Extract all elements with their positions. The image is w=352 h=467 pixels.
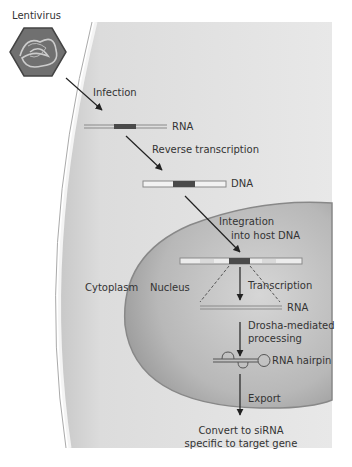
host-dna-strand [180, 258, 302, 264]
lentivirus-icon [10, 28, 66, 76]
label-rna-transcript: RNA [287, 302, 308, 314]
label-drosha-2: processing [248, 333, 302, 345]
label-dna: DNA [231, 178, 253, 190]
label-export: Export [248, 393, 281, 405]
label-cytoplasm: Cytoplasm [85, 282, 138, 294]
label-rna-viral: RNA [172, 121, 193, 133]
label-integration-2: into host DNA [231, 230, 300, 242]
label-convert-1: Convert to siRNA [180, 425, 302, 437]
label-drosha-1: Drosha-mediated [248, 320, 335, 332]
label-transcription: Transcription [248, 280, 312, 292]
label-convert-2: specific to target gene [170, 438, 312, 450]
label-rna-hairpin: RNA hairpin [272, 355, 331, 367]
label-integration-1: Integration [219, 216, 274, 228]
label-infection: Infection [93, 87, 137, 99]
viral-dna-strand [143, 181, 226, 187]
label-lentivirus: Lentivirus [12, 10, 61, 22]
label-nucleus: Nucleus [150, 282, 190, 294]
label-reverse-transcription: Reverse transcription [152, 144, 259, 156]
